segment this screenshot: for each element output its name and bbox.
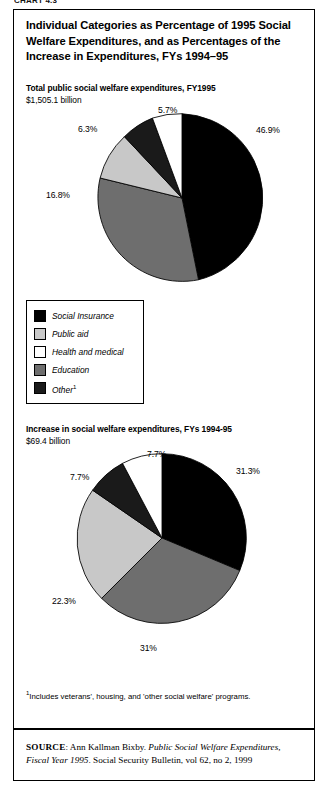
legend-swatch-social-insurance	[34, 310, 46, 322]
legend-swatch-education	[34, 364, 46, 376]
legend-label-public-aid: Public aid	[52, 329, 88, 339]
pie1-label-public-aid: 16.8%	[46, 190, 70, 200]
pie2-label-other: 7.7%	[70, 472, 89, 482]
chart-page: CHART 4.3 Individual Categories as Perce…	[0, 0, 329, 792]
pie1-label-other: 6.3%	[78, 124, 97, 134]
pie2-svg	[76, 452, 248, 624]
chart2-amount: $69.4 billion	[26, 436, 276, 448]
chart1-title: Total public social welfare expenditures…	[26, 83, 216, 93]
pie1-svg	[96, 112, 268, 284]
page-title: Individual Categories as Percentage of 1…	[26, 18, 294, 65]
pie1-slice-social-insurance	[182, 114, 263, 280]
legend-swatch-other	[34, 382, 46, 394]
legend-label-other-text: Other	[52, 384, 73, 394]
chart2-subhead: Increase in social welfare expenditures,…	[26, 424, 276, 447]
source-publication: . Social Security Bulletin, vol 62, no 2…	[88, 755, 252, 765]
source-note: SOURCE: Ann Kallman Bixby. Public Social…	[26, 741, 298, 766]
pie1-label-social-insurance: 46.9%	[256, 125, 280, 135]
pie2-label-health-and-medical: 7.7%	[147, 449, 166, 459]
pie-chart-total-expenditures	[96, 112, 268, 284]
legend-swatch-public-aid	[34, 328, 46, 340]
legend-item-public-aid: Public aid	[34, 325, 137, 343]
legend-item-health-and-medical: Health and medical	[34, 343, 137, 361]
pie2-label-social-insurance: 31.3%	[236, 466, 260, 476]
chart1-subhead: Total public social welfare expenditures…	[26, 83, 276, 106]
footnote-text: Includes veterans', housing, and 'other …	[29, 692, 250, 701]
chart2-title: Increase in social welfare expenditures,…	[26, 424, 232, 434]
legend-swatch-health-and-medical	[34, 346, 46, 358]
chart-legend: Social Insurance Public aid Health and m…	[26, 300, 144, 404]
chart1-amount: $1,505.1 billion	[26, 95, 276, 107]
chart-number-header: CHART 4.3	[14, 0, 57, 5]
source-divider	[14, 728, 314, 730]
pie2-label-public-aid: 22.3%	[52, 596, 76, 606]
legend-label-education: Education	[52, 365, 89, 375]
legend-item-other: Other1	[34, 379, 137, 397]
legend-other-footnote-marker: 1	[73, 384, 76, 390]
pie2-label-education: 31%	[140, 643, 157, 653]
source-label: SOURCE	[26, 742, 66, 752]
footnote: 1Includes veterans', housing, and 'other…	[26, 688, 294, 702]
legend-label-other: Other1	[52, 382, 76, 395]
pie1-label-health-and-medical: 5.7%	[158, 105, 177, 115]
pie-chart-increase-expenditures	[76, 452, 248, 624]
legend-label-social-insurance: Social Insurance	[52, 311, 114, 321]
legend-label-health-and-medical: Health and medical	[52, 347, 124, 357]
legend-item-education: Education	[34, 361, 137, 379]
source-author: Ann Kallman Bixby.	[70, 742, 149, 752]
legend-item-social-insurance: Social Insurance	[34, 307, 137, 325]
